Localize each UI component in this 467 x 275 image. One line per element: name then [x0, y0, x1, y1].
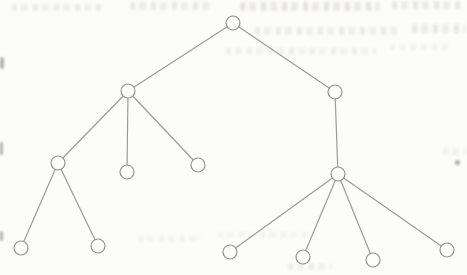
tree-node-right-1a: [223, 245, 237, 259]
tree-node-left-2: [120, 165, 134, 179]
tree-edge-root-left: [128, 23, 233, 91]
tree-node-left-1a: [14, 241, 28, 255]
tree-edge-left-left-2: [127, 91, 128, 172]
tree-node-root: [226, 16, 240, 30]
tree-edge-left-left-1: [58, 91, 128, 163]
tree-node-left-1b: [91, 239, 105, 253]
tree-node-right-1c: [366, 253, 380, 267]
tree-node-right-1: [331, 167, 345, 181]
tree-edge-left-left-3: [128, 91, 198, 165]
tree-edge-right-1-right-1d: [338, 174, 447, 250]
tree-node-right: [328, 85, 342, 99]
tree-edge-root-right: [233, 23, 335, 92]
tree-diagram: [0, 0, 467, 275]
tree-node-right-1b: [296, 250, 310, 264]
tree-edge-left-1-left-1a: [21, 163, 58, 248]
scanned-page: [0, 0, 467, 275]
tree-node-right-1d: [440, 243, 454, 257]
tree-edge-left-1-left-1b: [58, 163, 98, 246]
tree-node-left-1: [51, 156, 65, 170]
tree-edge-right-right-1: [335, 92, 338, 174]
tree-node-left: [121, 84, 135, 98]
tree-node-left-3: [191, 158, 205, 172]
